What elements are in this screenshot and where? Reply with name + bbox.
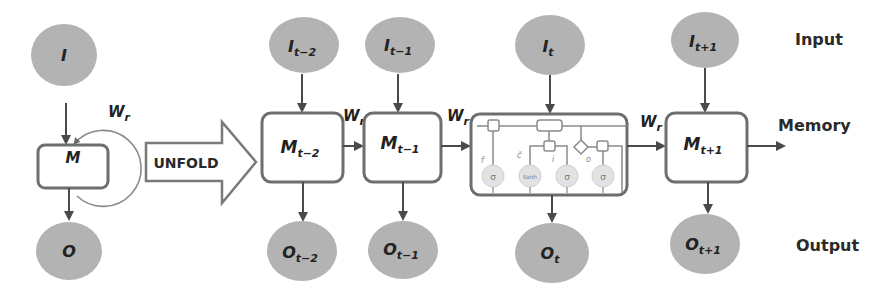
recurrent-weight-label: Wr xyxy=(447,107,470,128)
folded-rnn: I Wr M O xyxy=(31,24,141,280)
input-node xyxy=(269,17,339,73)
forget-multiply-icon xyxy=(488,120,499,131)
svg-text:σ: σ xyxy=(600,172,606,182)
input-node-label: I xyxy=(61,46,67,65)
recurrent-weight-label: Wr xyxy=(640,113,663,134)
unfold-label: UNFOLD xyxy=(153,155,218,171)
svg-text:σ: σ xyxy=(490,172,496,182)
step-t-minus-2: It−2 Mt−2 Ot−2 xyxy=(262,17,343,281)
svg-text:o: o xyxy=(586,155,591,164)
step-t-lstm: It σ xyxy=(471,15,627,283)
row-label-input: Input xyxy=(795,30,843,49)
row-label-output: Output xyxy=(796,236,859,255)
memory-node-label: M xyxy=(66,149,81,167)
output-multiply-icon xyxy=(597,141,608,151)
output-node xyxy=(267,221,337,281)
input-node xyxy=(515,15,585,75)
unfold-arrow: UNFOLD xyxy=(146,122,256,203)
row-label-memory: Memory xyxy=(778,116,851,135)
output-node-label: O xyxy=(62,242,76,261)
step-t-minus-1: It−1 Mt−1 Ot−1 xyxy=(364,17,441,279)
rnn-unfold-diagram: I Wr M O UNFOLD It−2 Mt−2 xyxy=(0,0,893,296)
input-node xyxy=(671,12,739,68)
svg-text:σ: σ xyxy=(564,172,570,182)
svg-text:tanh: tanh xyxy=(523,173,537,180)
recurrent-weight-label: Wr xyxy=(108,103,131,124)
step-t-plus-1: It+1 Mt+1 Ot+1 xyxy=(666,12,784,274)
add-icon xyxy=(537,120,562,131)
input-multiply-icon xyxy=(544,141,555,151)
recurrent-weight-label: Wr xyxy=(343,107,366,128)
